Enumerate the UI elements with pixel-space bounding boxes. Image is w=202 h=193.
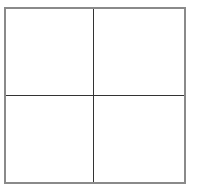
grid-cell-bottom-left — [6, 96, 93, 182]
horizontal-divider — [6, 95, 184, 96]
grid-cell-bottom-right — [94, 96, 184, 182]
grid-square — [4, 7, 186, 184]
grid-cell-top-right — [94, 9, 184, 95]
grid-cell-top-left — [6, 9, 93, 95]
